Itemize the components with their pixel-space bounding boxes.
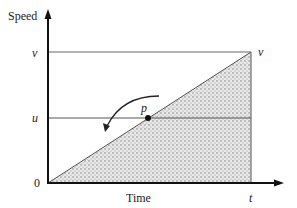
origin-label: 0	[34, 177, 40, 189]
x-tick-t: t	[249, 192, 252, 204]
x-axis-arrow-icon	[274, 180, 284, 187]
corner-label-v: v	[258, 46, 263, 58]
y-axis-arrow-icon	[45, 9, 52, 19]
y-tick-v: v	[32, 47, 37, 59]
curved-arrow-head-icon	[103, 123, 110, 132]
point-p	[145, 115, 151, 121]
y-axis-label: Speed	[8, 10, 37, 22]
x-axis-label: Time	[126, 192, 151, 204]
y-tick-u: u	[32, 112, 38, 124]
speed-time-diagram	[0, 0, 297, 208]
point-label-p: p	[141, 102, 147, 114]
